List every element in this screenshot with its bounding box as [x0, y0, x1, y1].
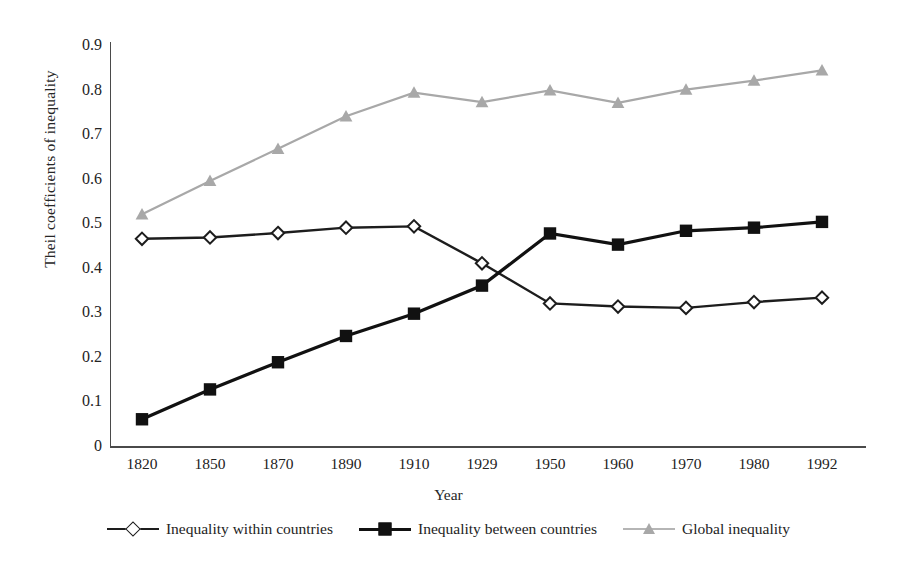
chart-legend: Inequality within countries Inequality b… [0, 520, 897, 538]
x-axis-tick: 1960 [603, 455, 634, 473]
data-point [612, 238, 624, 250]
series-inequality-within-countries [136, 220, 828, 314]
data-point [680, 225, 692, 237]
x-axis-tick: 1929 [467, 455, 498, 473]
data-point [816, 291, 828, 303]
data-point [748, 296, 760, 308]
legend-marker-triangle-icon [623, 522, 675, 536]
data-point [136, 233, 148, 245]
series-inequality-between-countries [136, 216, 828, 426]
legend-marker-diamond-icon [107, 522, 159, 536]
legend-marker-square-icon [359, 522, 411, 536]
data-point [544, 227, 556, 239]
data-point [340, 330, 352, 342]
data-point [272, 356, 284, 368]
x-axis-tick: 1870 [263, 455, 294, 473]
data-point [816, 216, 828, 228]
data-point [748, 221, 760, 233]
data-point [680, 302, 692, 314]
data-point [476, 257, 488, 269]
data-point [204, 231, 216, 243]
data-point [544, 84, 557, 96]
data-point [340, 221, 352, 233]
data-point [408, 307, 420, 319]
data-point [136, 413, 148, 425]
x-axis-tick: 1970 [671, 455, 702, 473]
data-point [204, 174, 217, 186]
x-axis-tick: 1850 [195, 455, 226, 473]
data-point [272, 142, 285, 154]
x-axis-tick: 1950 [535, 455, 566, 473]
data-point [204, 383, 216, 395]
data-point [816, 64, 829, 76]
chart-plot-series [0, 0, 897, 569]
data-point [136, 208, 149, 220]
x-axis-title: Year [0, 486, 897, 504]
data-point [408, 86, 421, 98]
series-global-inequality [136, 64, 829, 219]
x-axis-tick: 1820 [127, 455, 158, 473]
data-point [612, 300, 624, 312]
data-point [408, 220, 420, 232]
x-axis-tick: 1980 [739, 455, 770, 473]
legend-item-global-inequality[interactable]: Global inequality [623, 520, 790, 538]
legend-item-inequality-between-countries[interactable]: Inequality between countries [359, 520, 597, 538]
data-point [544, 297, 556, 309]
data-point [272, 227, 284, 239]
legend-label: Inequality within countries [166, 520, 333, 538]
legend-label: Inequality between countries [418, 520, 597, 538]
x-axis-tick: 1910 [399, 455, 430, 473]
x-axis-tick: 1890 [331, 455, 362, 473]
data-point [476, 279, 488, 291]
legend-label: Global inequality [682, 520, 790, 538]
x-axis-tick: 1992 [807, 455, 838, 473]
chart-container: Theil coefficients of inequality 0.90.80… [0, 0, 897, 569]
legend-item-inequality-within-countries[interactable]: Inequality within countries [107, 520, 333, 538]
